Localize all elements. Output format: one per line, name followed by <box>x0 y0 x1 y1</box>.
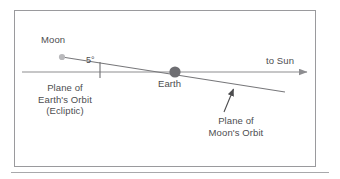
label-inclination-angle: 5° <box>86 55 95 67</box>
label-to-sun: to Sun <box>266 55 294 67</box>
earth-body-icon <box>169 66 180 77</box>
figure-root: Moon 5° to Sun Earth Plane of Earth's Or… <box>0 0 340 179</box>
moon-orbit-leader-arrow-icon <box>224 89 234 112</box>
label-ecliptic-plane: Plane of Earth's Orbit (Ecliptic) <box>19 82 111 117</box>
label-moon-orbit-plane-line2: Moon's Orbit <box>193 127 279 139</box>
moon-body-icon <box>59 54 65 60</box>
label-earth: Earth <box>158 78 181 90</box>
label-ecliptic-plane-line3: (Ecliptic) <box>19 105 111 117</box>
label-moon: Moon <box>41 34 65 46</box>
footer-divider <box>11 172 329 173</box>
label-ecliptic-plane-line1: Plane of <box>19 82 111 94</box>
label-moon-orbit-plane: Plane of Moon's Orbit <box>193 115 279 138</box>
label-moon-orbit-plane-line1: Plane of <box>193 115 279 127</box>
label-ecliptic-plane-line2: Earth's Orbit <box>19 94 111 106</box>
